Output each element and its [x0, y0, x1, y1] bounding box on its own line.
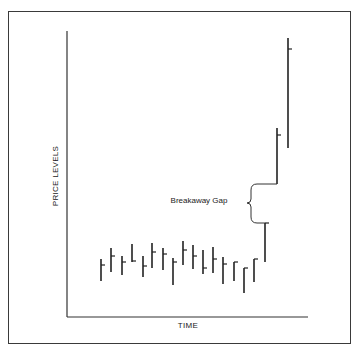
x-axis-label: TIME: [178, 321, 198, 330]
y-axis-label: PRICE LEVELS: [51, 146, 60, 207]
gap-brace: [247, 184, 277, 223]
diagram: PRICE LEVELS TIME Breakaway Gap: [0, 0, 359, 347]
breakaway-gap-label: Breakaway Gap: [171, 196, 228, 205]
price-bars: [101, 38, 292, 293]
